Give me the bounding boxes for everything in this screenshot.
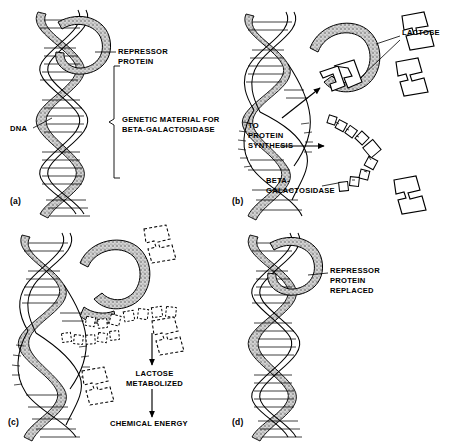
lactose-dashed-1 xyxy=(144,225,176,263)
dna-helix-d xyxy=(248,233,302,441)
lactose-molecule-3 xyxy=(394,176,426,214)
lactose-dashed-3 xyxy=(82,367,114,405)
panel-tag-c: (c) xyxy=(8,417,19,427)
lactose-molecule-2 xyxy=(396,58,428,96)
panel-d: REPRESSOR PROTEIN REPLACED (d) xyxy=(224,221,448,442)
label-dna: DNA xyxy=(10,124,27,134)
label-lactose-metabolized: LACTOSE METABOLIZED xyxy=(126,369,183,389)
dna-helix-a xyxy=(36,10,90,218)
leader-lactose-b1 xyxy=(376,36,400,44)
panel-a: REPRESSOR PROTEIN DNA GENETIC MATERIAL F… xyxy=(0,0,224,221)
panel-c: LACTOSE METABOLIZED CHEMICAL ENERGY (c) xyxy=(0,221,224,442)
panel-tag-a: (a) xyxy=(10,196,21,206)
lac-operon-figure: REPRESSOR PROTEIN DNA GENETIC MATERIAL F… xyxy=(0,0,449,443)
label-repressor-protein: REPRESSOR PROTEIN xyxy=(118,47,168,67)
lactose-dashed-2 xyxy=(152,317,184,355)
panel-tag-b: (b) xyxy=(232,196,243,206)
label-to-protein-synthesis: TO PROTEIN SYNTHESIS xyxy=(248,121,293,151)
label-beta-galactosidase: BETA- GALACTOSIDASE xyxy=(266,176,335,196)
panel-tag-d: (d) xyxy=(232,417,243,427)
label-lactose: LACTOSE xyxy=(402,28,440,38)
panel-b: LACTOSE TO PROTEIN SYNTHESIS BETA- GALAC… xyxy=(224,0,448,221)
brace-genetic-material xyxy=(109,66,120,178)
beta-galactosidase-chain-b xyxy=(327,115,381,191)
label-chemical-energy: CHEMICAL ENERGY xyxy=(110,419,188,429)
panel-d-drawing xyxy=(224,221,448,442)
panel-c-drawing xyxy=(0,221,224,442)
label-repressor-protein-replaced: REPRESSOR PROTEIN REPLACED xyxy=(330,266,380,296)
arrow-synthesis-up xyxy=(282,88,320,118)
label-genetic-material: GENETIC MATERIAL FOR BETA-GALACTOSIDASE xyxy=(122,115,220,135)
leader-lactose-b2 xyxy=(360,40,400,78)
panel-a-drawing xyxy=(0,0,224,221)
